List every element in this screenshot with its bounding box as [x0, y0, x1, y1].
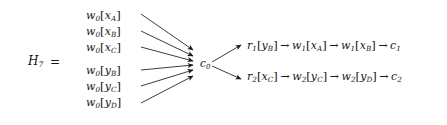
- figure-label-letter: H: [28, 54, 39, 68]
- edge-input-4: [141, 65, 193, 70]
- edge-input-2: [141, 31, 193, 56]
- chain-step: r1[yB]: [247, 39, 278, 52]
- figure-label-subscript: 7: [39, 60, 44, 69]
- edge-layer: [0, 0, 447, 125]
- chain-step-commit: c2: [391, 70, 402, 83]
- input-term: w0[xC]: [86, 42, 121, 54]
- chain-arrow-icon: →: [377, 70, 391, 83]
- chain-arrow-icon: →: [376, 39, 390, 52]
- equals-sign: =: [50, 55, 60, 69]
- chain-top: r1[yB]→w1[xA]→w1[xB]→c1: [247, 40, 401, 52]
- chain-step: r2[xC]: [247, 70, 278, 83]
- figure-container: H7 = w0[xA] w0[xB] w0[xC] w0[yB] w0[yC] …: [0, 0, 447, 125]
- chain-arrow-icon: →: [278, 70, 292, 83]
- input-term: w0[yC]: [86, 81, 121, 93]
- input-term: w0[xB]: [86, 26, 121, 38]
- chain-arrow-icon: →: [327, 70, 341, 83]
- chain-step: w1[xB]: [341, 39, 376, 52]
- chain-arrow-icon: →: [327, 39, 341, 52]
- figure-label: H7: [28, 55, 43, 67]
- chain-step: w2[yD]: [341, 70, 376, 83]
- input-term: w0[yB]: [86, 65, 121, 77]
- chain-arrow-icon: →: [278, 39, 292, 52]
- chain-bottom: r2[xC]→w2[yC]→w2[yD]→c2: [247, 71, 402, 83]
- input-term: w0[yD]: [86, 97, 121, 109]
- edge-input-6: [141, 76, 193, 103]
- fan-in-edges: [141, 14, 193, 103]
- chain-step-commit: c1: [390, 39, 401, 52]
- edge-chain-bottom: [212, 66, 241, 79]
- fan-out-edges: [212, 45, 241, 79]
- chain-step: w2[yC]: [292, 70, 327, 83]
- edge-chain-top: [212, 45, 241, 62]
- edge-input-1: [141, 14, 193, 50]
- edge-input-3: [141, 47, 193, 61]
- chain-step: w1[xA]: [292, 39, 327, 52]
- input-term: w0[xA]: [86, 10, 121, 22]
- edge-input-5: [141, 70, 193, 86]
- hub-node-c0: c0: [200, 58, 210, 69]
